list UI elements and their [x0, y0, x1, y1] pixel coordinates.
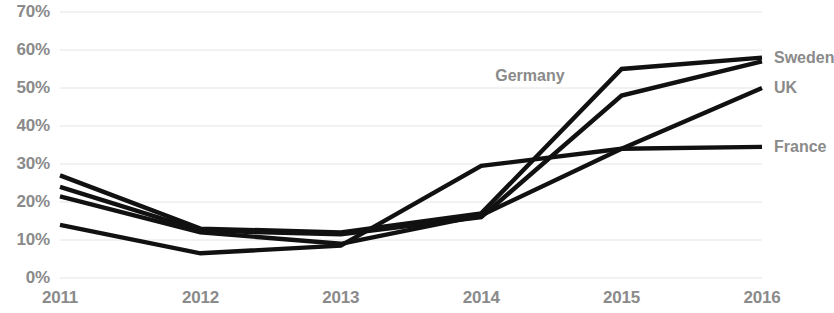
- y-axis-tick-label: 10%: [0, 230, 50, 250]
- series-lines: [60, 58, 762, 254]
- y-axis-tick-label: 70%: [0, 2, 50, 22]
- y-axis-tick-label: 30%: [0, 154, 50, 174]
- y-axis-tick-label: 40%: [0, 116, 50, 136]
- x-axis-tick-label: 2013: [322, 288, 359, 308]
- y-axis-tick-label: 50%: [0, 78, 50, 98]
- x-axis-tick-label: 2016: [743, 288, 780, 308]
- x-axis-tick-label: 2012: [182, 288, 219, 308]
- series-label-uk: UK: [774, 79, 797, 97]
- x-axis-tick-label: 2014: [463, 288, 500, 308]
- y-axis-tick-label: 60%: [0, 40, 50, 60]
- y-axis-tick-label: 20%: [0, 192, 50, 212]
- series-label-france: France: [774, 138, 826, 156]
- x-axis-tick-label: 2011: [42, 288, 78, 308]
- series-label-sweden: Sweden: [774, 49, 834, 67]
- y-axis-tick-label: 0%: [0, 268, 50, 288]
- x-axis-tick-label: 2015: [603, 288, 640, 308]
- annotation-germany: Germany: [495, 67, 564, 85]
- gridlines: [60, 12, 762, 278]
- series-line-france: [60, 147, 762, 253]
